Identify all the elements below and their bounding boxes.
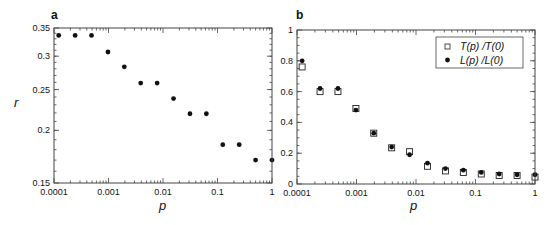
data-point-circle bbox=[56, 33, 61, 38]
y-tick-label: 0.15 bbox=[32, 178, 50, 188]
x-tick-label: 0.1 bbox=[211, 187, 224, 197]
y-tick-label: 0.4 bbox=[280, 117, 293, 127]
panel-b-data-points bbox=[299, 58, 538, 180]
data-point-circle bbox=[300, 58, 305, 63]
data-point-circle bbox=[89, 33, 94, 38]
figure: a r p 0.00010.0010.010.110.350.30.250.20… bbox=[0, 0, 548, 225]
data-point-circle bbox=[155, 81, 160, 86]
panel-a-plot-frame bbox=[54, 28, 272, 183]
data-point-circle bbox=[353, 108, 358, 113]
y-tick-label: 0.2 bbox=[280, 148, 293, 158]
x-tick-label: 0.01 bbox=[407, 188, 425, 198]
data-point-circle bbox=[479, 170, 484, 175]
x-tick-label: 0.1 bbox=[469, 188, 482, 198]
data-point-circle bbox=[407, 152, 412, 157]
data-point-circle bbox=[253, 158, 258, 163]
data-point-circle bbox=[389, 145, 394, 150]
y-tick-label: 0.25 bbox=[32, 85, 50, 95]
data-point-circle bbox=[106, 50, 111, 55]
x-tick-label: 1 bbox=[269, 187, 274, 197]
panel-a-x-axis-title: p bbox=[158, 198, 166, 213]
data-point-circle bbox=[336, 86, 341, 91]
filled-circle-marker-icon bbox=[445, 58, 450, 63]
y-tick-label: 0.3 bbox=[37, 51, 50, 61]
y-tick-label: 0.2 bbox=[37, 125, 50, 135]
data-point-circle bbox=[425, 161, 430, 166]
y-tick-label: 0.8 bbox=[280, 56, 293, 66]
panel-a-ticks: 0.00010.0010.010.110.350.30.250.20.15 bbox=[32, 23, 274, 197]
y-tick-label: 0 bbox=[288, 179, 293, 189]
data-point-circle bbox=[497, 172, 502, 177]
data-point-square bbox=[299, 64, 305, 70]
x-tick-label: 0.001 bbox=[97, 187, 120, 197]
data-point-circle bbox=[461, 168, 466, 173]
legend-entry-l: L(p) /L(0) bbox=[460, 54, 503, 66]
panel-b-x-axis-title: p bbox=[409, 198, 417, 213]
y-tick-label: 0.35 bbox=[32, 23, 50, 33]
panel-a-label: a bbox=[51, 8, 58, 22]
data-point-circle bbox=[73, 33, 78, 38]
x-tick-label: 0.0001 bbox=[40, 187, 68, 197]
data-point-circle bbox=[122, 64, 127, 69]
legend-entry-t: T(p) /T(0) bbox=[460, 40, 504, 52]
panel-a-y-axis-title: r bbox=[14, 95, 19, 110]
data-point-circle bbox=[188, 111, 193, 116]
chart-canvas: a r p 0.00010.0010.010.110.350.30.250.20… bbox=[0, 0, 548, 225]
y-tick-label: 0.6 bbox=[280, 87, 293, 97]
data-point-circle bbox=[138, 81, 143, 86]
data-point-circle bbox=[443, 166, 448, 171]
panel-a-data-points bbox=[56, 33, 274, 162]
x-tick-label: 0.0001 bbox=[283, 188, 311, 198]
data-point-circle bbox=[237, 142, 242, 147]
data-point-circle bbox=[515, 172, 520, 177]
x-tick-label: 1 bbox=[532, 188, 537, 198]
open-square-marker-icon bbox=[445, 44, 450, 49]
panel-b-label: b bbox=[296, 8, 303, 22]
x-tick-label: 0.001 bbox=[345, 188, 368, 198]
panel-b-legend: T(p) /T(0) L(p) /L(0) bbox=[436, 37, 523, 68]
data-point-circle bbox=[171, 96, 176, 101]
panel-a: a r p 0.00010.0010.010.110.350.30.250.20… bbox=[14, 8, 275, 213]
panel-b: b p 0.00010.0010.010.1110.80.60.40.20 T(… bbox=[280, 8, 538, 213]
x-tick-label: 0.01 bbox=[154, 187, 172, 197]
y-tick-label: 1 bbox=[288, 25, 293, 35]
data-point-circle bbox=[220, 142, 225, 147]
data-point-circle bbox=[204, 111, 209, 116]
data-point-circle bbox=[371, 131, 376, 136]
data-point-circle bbox=[318, 86, 323, 91]
